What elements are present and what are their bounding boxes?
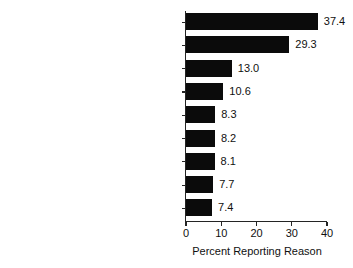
y-axis-tick [182, 45, 186, 46]
x-axis-tick-label: 40 [321, 227, 333, 240]
y-axis-tick [182, 68, 186, 69]
bar [186, 36, 289, 53]
bar-value-label: 8.3 [221, 106, 236, 123]
bar [186, 13, 318, 30]
y-axis-tick [182, 185, 186, 186]
x-axis-tick [291, 222, 292, 226]
bar-value-label: 10.6 [229, 83, 250, 100]
y-axis-tick [182, 22, 186, 23]
horizontal-bar-chart: No health coverage and could not afford … [0, 0, 353, 268]
y-axis-tick [182, 208, 186, 209]
bar [186, 176, 213, 193]
bar [186, 199, 212, 216]
bar [186, 130, 215, 147]
bar [186, 83, 223, 100]
y-axis-tick [182, 161, 186, 162]
x-axis-tick [256, 222, 257, 226]
x-axis-tick-label: 20 [250, 227, 262, 240]
x-axis-tick-label: 0 [183, 227, 189, 240]
x-axis-tick [326, 222, 327, 226]
x-axis-tick [185, 222, 186, 226]
plot-area: No health coverage and could not afford … [0, 0, 353, 268]
bar-value-label: 13.0 [238, 60, 259, 77]
y-axis-tick [182, 91, 186, 92]
bar-value-label: 7.4 [218, 199, 233, 216]
y-axis-tick [182, 138, 186, 139]
x-axis-tick [221, 222, 222, 226]
bar-value-label: 8.1 [221, 153, 236, 170]
y-axis-tick [182, 115, 186, 116]
bar-value-label: 29.3 [295, 36, 316, 53]
x-axis-tick-label: 10 [215, 227, 227, 240]
bar [186, 153, 215, 170]
bar-value-label: 37.4 [324, 13, 345, 30]
bar-value-label: 7.7 [219, 176, 234, 193]
bar [186, 106, 215, 123]
bar-value-label: 8.2 [221, 130, 236, 147]
x-axis-title: Percent Reporting Reason [186, 245, 328, 257]
bar [186, 60, 232, 77]
x-axis-tick-label: 30 [286, 227, 298, 240]
